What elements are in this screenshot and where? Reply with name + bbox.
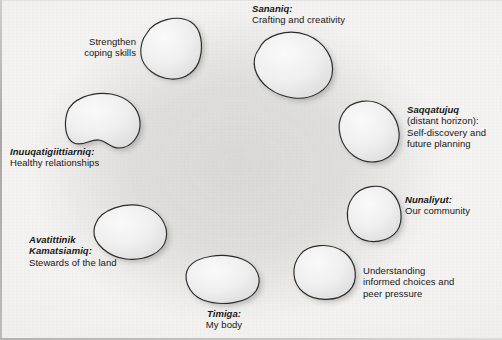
nunaliyut-term: Nunaliyut: — [405, 194, 470, 205]
saqqatujuq-line-1: (distant horizon): — [407, 115, 486, 126]
saqqatujuq-line-2: Self-discovery and — [407, 127, 486, 138]
avatittinik-term-line-1: Avatittinik — [29, 234, 117, 245]
sananiq-term: Sananiq: — [252, 3, 345, 14]
label-sananiq: Sananiq: Crafting and creativity — [252, 3, 345, 26]
scan-edge-top — [0, 0, 502, 1]
diagram-page: Strengthen coping skills Sananiq: Crafti… — [0, 0, 502, 340]
label-saqqatujuq: Saqqatujuq (distant horizon): Self-disco… — [407, 104, 486, 150]
understanding-line-1: Understanding — [363, 265, 454, 276]
inuuqatigiittiarniq-term: Inuuqatigiittiarniq: — [10, 146, 99, 157]
label-understanding-informed-choices: Understanding informed choices and peer … — [363, 265, 454, 299]
stone-saqqatujuq — [339, 101, 402, 165]
nunaliyut-description: Our community — [405, 205, 470, 216]
stone-nunaliyut — [347, 186, 404, 244]
stone-understanding-informed-choices — [294, 246, 358, 303]
stone-sananiq — [254, 32, 335, 101]
label-inuuqatigiittiarniq: Inuuqatigiittiarniq: Healthy relationshi… — [10, 146, 99, 169]
sananiq-description: Crafting and creativity — [252, 14, 345, 25]
stone-timiga — [186, 256, 262, 307]
inuuqatigiittiarniq-description: Healthy relationships — [10, 157, 99, 168]
strengthen-line-1: Strengthen — [54, 36, 136, 47]
saqqatujuq-term: Saqqatujuq — [407, 104, 486, 115]
scan-edge-left — [0, 0, 2, 340]
avatittinik-description: Stewards of the land — [29, 257, 117, 268]
strengthen-line-2: coping skills — [54, 47, 136, 58]
timiga-description: My body — [176, 319, 272, 330]
label-strengthen-coping-skills: Strengthen coping skills — [54, 36, 136, 59]
label-avatittinik-kamatsiamiq: Avatittinik Kamatsiamiq: Stewards of the… — [29, 234, 117, 268]
label-nunaliyut: Nunaliyut: Our community — [405, 194, 470, 217]
stone-inuuqatigiittiarniq — [65, 93, 143, 151]
understanding-line-2: informed choices and — [363, 276, 454, 287]
avatittinik-term-line-2: Kamatsiamiq: — [29, 245, 117, 256]
timiga-term: Timiga: — [176, 308, 272, 319]
saqqatujuq-line-3: future planning — [407, 138, 486, 149]
label-timiga: Timiga: My body — [176, 308, 272, 331]
stone-strengthen-coping-skills — [141, 18, 205, 81]
understanding-line-3: peer pressure — [363, 288, 454, 299]
